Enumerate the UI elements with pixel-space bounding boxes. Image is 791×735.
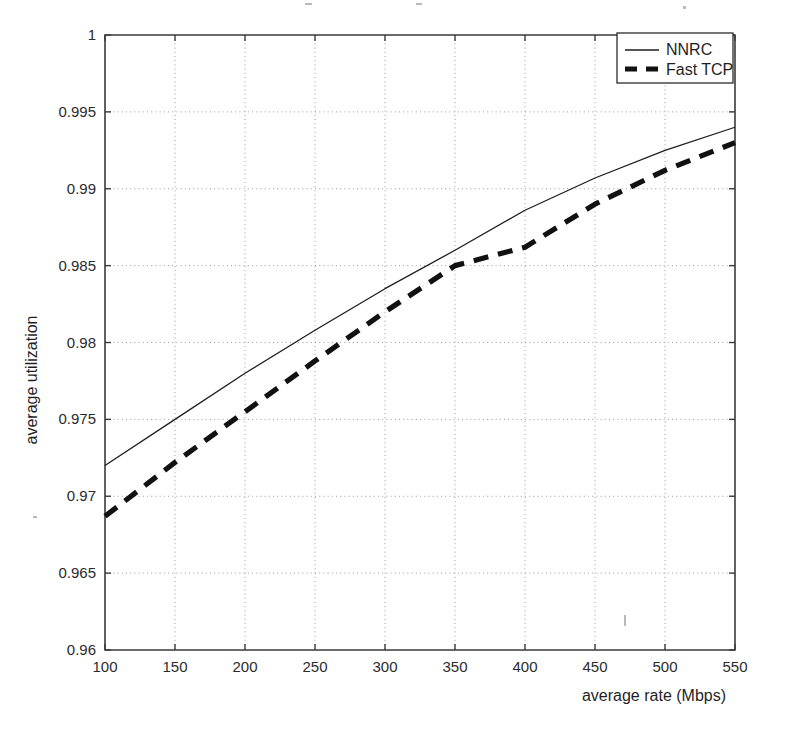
line-chart-svg: 100150200250300350400450500550 0.960.965… bbox=[0, 0, 791, 735]
y-tick-label: 0.965 bbox=[58, 564, 96, 581]
series-line-fast-tcp bbox=[105, 143, 735, 517]
y-tick-label: 0.97 bbox=[67, 487, 96, 504]
x-axis-title: average rate (Mbps) bbox=[582, 687, 726, 704]
y-tick-label: 0.96 bbox=[67, 641, 96, 658]
y-axis-title: average utilization bbox=[23, 316, 40, 445]
x-tick-label: 350 bbox=[442, 658, 467, 675]
chart-legend: NNRC Fast TCP bbox=[617, 33, 733, 83]
x-tick-label: 300 bbox=[372, 658, 397, 675]
x-tick-label: 500 bbox=[652, 658, 677, 675]
x-tick-label: 400 bbox=[512, 658, 537, 675]
y-tick-label: 0.985 bbox=[58, 257, 96, 274]
legend-label-fast-tcp: Fast TCP bbox=[666, 61, 733, 78]
x-tick-label: 150 bbox=[162, 658, 187, 675]
y-tick-label: 0.975 bbox=[58, 410, 96, 427]
x-tick-label: 450 bbox=[582, 658, 607, 675]
x-tick-label: 550 bbox=[722, 658, 747, 675]
legend-label-nnrc: NNRC bbox=[666, 41, 712, 58]
x-tick-label: 250 bbox=[302, 658, 327, 675]
y-tick-label: 0.99 bbox=[67, 180, 96, 197]
scan-artifacts bbox=[33, 3, 686, 626]
chart-gridlines bbox=[105, 35, 735, 650]
y-tick-label: 1 bbox=[88, 26, 96, 43]
series-line-nnrc bbox=[105, 127, 735, 465]
x-tick-label: 200 bbox=[232, 658, 257, 675]
y-axis-tick-labels: 0.960.9650.970.9750.980.9850.990.9951 bbox=[58, 26, 96, 658]
y-tick-label: 0.995 bbox=[58, 103, 96, 120]
y-tick-label: 0.98 bbox=[67, 334, 96, 351]
x-tick-label: 100 bbox=[92, 658, 117, 675]
x-axis-tick-labels: 100150200250300350400450500550 bbox=[92, 658, 747, 675]
chart-figure: 100150200250300350400450500550 0.960.965… bbox=[0, 0, 791, 735]
